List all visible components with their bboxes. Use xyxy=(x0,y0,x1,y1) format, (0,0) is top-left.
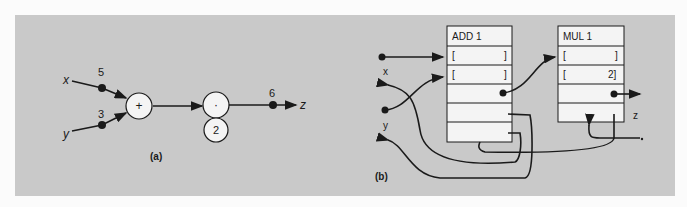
dataflow-diagram: x 5 y 3 + · 2 6 z (a) ADD 1 [ xyxy=(0,0,687,207)
input-y-value: 3 xyxy=(98,108,104,120)
figure-a: x 5 y 3 + · 2 6 z (a) xyxy=(62,66,306,162)
output-z-label: z xyxy=(299,98,306,112)
mul-block-title: MUL 1 xyxy=(563,31,593,42)
add-block-title: ADD 1 xyxy=(452,31,482,42)
output-z-value: 6 xyxy=(269,87,275,99)
input-x-value: 5 xyxy=(98,66,104,78)
add-operand2-open: [ xyxy=(452,69,455,80)
mul-operand1-close: ] xyxy=(615,50,618,61)
mul-operand1-open: [ xyxy=(563,50,566,61)
add-block: ADD 1 [ ] [ ] xyxy=(447,26,512,142)
token-z xyxy=(269,101,277,109)
figure-a-caption: (a) xyxy=(150,151,162,162)
add-operand2-close: ] xyxy=(504,69,507,80)
add-operand1-close: ] xyxy=(504,50,507,61)
token-x xyxy=(98,84,106,92)
z-label: z xyxy=(633,110,638,121)
mul-operand2-open: [ xyxy=(563,69,566,80)
x-label: x xyxy=(383,66,388,77)
figure-b: ADD 1 [ ] [ ] MUL 1 [ ] [ 2] x y xyxy=(375,26,643,182)
input-y-label: y xyxy=(62,127,70,141)
add-operand1-open: [ xyxy=(452,50,455,61)
mul-node-symbol: · xyxy=(214,98,218,112)
mul-operand2-value: 2] xyxy=(608,69,617,80)
constant-value: 2 xyxy=(213,124,219,136)
token-y xyxy=(98,121,106,129)
mul-block: MUL 1 [ ] [ 2] xyxy=(558,26,624,122)
y-label: y xyxy=(383,120,388,131)
figure-b-caption: (b) xyxy=(375,171,388,182)
add-node-symbol: + xyxy=(135,99,142,113)
input-x-label: x xyxy=(62,73,70,87)
